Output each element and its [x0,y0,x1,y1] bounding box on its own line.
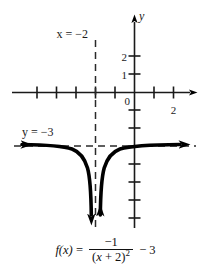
formula-tail: − 3 [139,243,155,257]
curve-left-branch [22,145,91,216]
y-axis-label: y [138,9,145,23]
formula-fraction: −1 (x + 2)2 [89,235,133,265]
x-axis [12,87,190,99]
y-tick-label-1: 1 [122,69,128,81]
graph-figure: y 2 1 0 2 x = −2 y = −3 [0,0,211,275]
vertical-asymptote-label: x = −2 [56,27,88,41]
formula-equals: = [76,243,83,257]
curve-right-branch [100,145,180,216]
origin-label: 0 [125,95,131,107]
y-tick-label-2: 2 [122,51,128,63]
x-tick-label-2: 2 [171,104,177,116]
formula-denominator: (x + 2)2 [89,250,133,265]
formula-den-plus: + 2 [105,250,121,264]
formula-den-var: x [96,250,102,264]
formula-lhs: f(x) [55,243,72,257]
y-axis [129,22,141,228]
horizontal-asymptote-label: y = −3 [22,125,54,139]
formula-den-exponent: 2 [126,248,131,258]
function-graph-svg: y 2 1 0 2 x = −2 y = −3 [0,0,211,275]
function-formula: f(x) = −1 (x + 2)2 − 3 [0,236,211,266]
